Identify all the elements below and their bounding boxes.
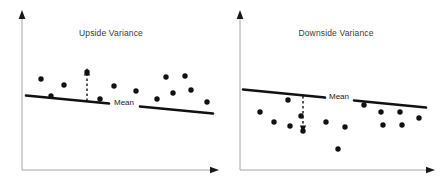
- chart-title: Downside Variance: [241, 28, 431, 38]
- downside-variance-chart: Downside Variance Mean: [221, 0, 442, 189]
- data-point: [188, 87, 193, 92]
- mean-line-left-segment: [243, 90, 325, 98]
- data-point: [397, 109, 402, 114]
- data-point: [48, 93, 53, 98]
- data-point: [97, 96, 102, 101]
- data-point: [271, 119, 276, 124]
- data-point: [204, 99, 209, 104]
- data-point: [163, 74, 168, 79]
- data-point: [380, 122, 385, 127]
- chart-title: Upside Variance: [18, 28, 204, 38]
- data-point: [170, 90, 175, 95]
- data-point: [61, 82, 66, 87]
- data-point: [111, 83, 116, 88]
- mean-label: Mean: [114, 98, 134, 107]
- data-point: [154, 96, 159, 101]
- upside-variance-chart: Upside Variance Mean: [0, 0, 221, 189]
- data-point: [416, 115, 421, 120]
- data-point: [361, 102, 366, 107]
- data-point: [287, 123, 292, 128]
- data-point: [323, 119, 328, 124]
- figure-canvas: Upside Variance Mean: [0, 0, 443, 189]
- y-axis-arrowhead-icon: [237, 10, 244, 19]
- x-axis-arrowhead-icon: [426, 167, 435, 173]
- data-point: [335, 146, 340, 151]
- mean-line-right-segment: [140, 107, 213, 114]
- y-axis-arrowhead-icon: [19, 10, 26, 19]
- data-point: [133, 88, 138, 93]
- data-point: [38, 76, 43, 81]
- mean-line-left-segment: [26, 96, 109, 104]
- data-point: [257, 109, 262, 114]
- data-point: [298, 113, 303, 118]
- data-point: [300, 128, 305, 133]
- x-axis-arrowhead-icon: [210, 167, 219, 173]
- data-point: [399, 122, 404, 127]
- data-point: [342, 124, 347, 129]
- data-point: [182, 73, 187, 78]
- mean-label: Mean: [329, 92, 349, 101]
- data-point: [285, 97, 290, 102]
- data-point: [378, 109, 383, 114]
- data-point: [84, 69, 89, 74]
